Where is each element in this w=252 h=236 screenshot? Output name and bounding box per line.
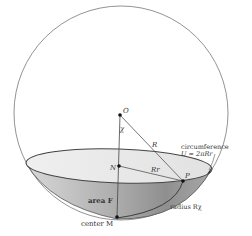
label-R: R [151, 141, 158, 149]
label-center-M: center M [81, 220, 113, 228]
label-P: P [184, 172, 190, 180]
point-M [115, 215, 119, 219]
label-Rr: Rr [150, 166, 160, 174]
label-arc-radius: radius Rχ [170, 203, 202, 211]
point-O [118, 113, 122, 117]
label-N: N [109, 164, 117, 172]
point-N [117, 164, 121, 168]
label-area: area F [88, 196, 113, 205]
label-O: O [123, 107, 129, 115]
spherical-cap-diagram: O χ R N Rr P circumference U = 2πRr area… [0, 0, 252, 236]
label-circumference-formula: U = 2πRr [181, 150, 213, 158]
label-angle-chi: χ [119, 125, 125, 133]
